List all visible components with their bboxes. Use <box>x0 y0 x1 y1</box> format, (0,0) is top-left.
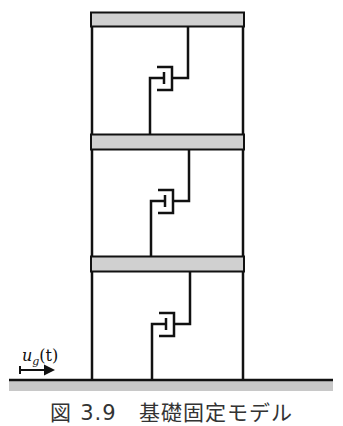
ground <box>9 380 333 391</box>
damper-brace-story-3 <box>150 27 188 134</box>
floor-slabs <box>91 13 244 272</box>
figure-caption: 図 3.9 基礎固定モデル <box>0 396 343 426</box>
slab-floor-3 <box>91 135 244 150</box>
columns <box>92 26 243 380</box>
damper-brace-story-1 <box>152 272 190 380</box>
slab-floor-2 <box>91 257 244 272</box>
damper-brace-story-2 <box>151 150 189 256</box>
ground-motion-label: ug(t) <box>22 346 58 368</box>
slab-roof <box>91 13 244 27</box>
